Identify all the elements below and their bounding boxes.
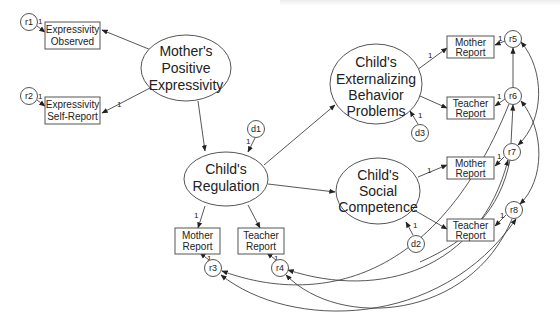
svg-text:Competence: Competence: [338, 199, 418, 215]
svg-text:Social: Social: [359, 183, 397, 199]
one-label: 1: [38, 17, 43, 26]
error-r7: r7: [504, 144, 521, 161]
one-label: 1: [38, 92, 43, 101]
path-r1-to-exp-obs: [37, 26, 45, 32]
svg-text:r8: r8: [510, 205, 518, 215]
svg-text:Behavior: Behavior: [348, 87, 404, 103]
path-soc-to-teacher-report: [414, 210, 447, 229]
error-r3: r3: [205, 260, 222, 277]
svg-text:r5: r5: [509, 34, 517, 44]
observed-social-mother-report: Mother Report: [447, 157, 494, 179]
svg-text:Expressivity: Expressivity: [46, 99, 99, 110]
observed-regulation-mother-report: Mother Report: [175, 228, 220, 254]
cov-r7-r6: [511, 105, 513, 143]
svg-text:Report: Report: [455, 108, 485, 119]
one-label: 1: [497, 92, 502, 101]
one-label: 1: [418, 111, 423, 120]
svg-text:r4: r4: [276, 263, 284, 273]
path-reg-to-soc: [268, 184, 335, 192]
observed-social-teacher-report: Teacher Report: [447, 219, 494, 241]
path-reg-to-mother-report: [198, 206, 205, 228]
observed-externalizing-mother-report: Mother Report: [447, 36, 494, 58]
svg-text:d2: d2: [411, 239, 421, 249]
svg-text:Positive: Positive: [161, 60, 210, 76]
path-mpe-to-reg: [198, 101, 205, 151]
path-mpe-to-exp-self: [102, 88, 150, 113]
one-label: 1: [427, 166, 432, 175]
path-reg-to-teacher-report: [248, 205, 260, 228]
svg-text:d1: d1: [251, 124, 261, 134]
error-r6: r6: [505, 88, 522, 105]
svg-text:d3: d3: [415, 128, 425, 138]
svg-text:r2: r2: [25, 91, 33, 101]
disturbance-d1: d1: [248, 121, 265, 138]
svg-text:Expressivity: Expressivity: [46, 24, 99, 35]
one-label: 1: [500, 211, 505, 220]
latent-childs-regulation: Child's Regulation: [184, 152, 268, 206]
path-soc-to-mother-report: [418, 165, 447, 177]
latent-childs-social-competence: Child's Social Competence: [336, 158, 420, 224]
svg-text:Report: Report: [455, 168, 485, 179]
fixed-loading-labels: 1 1 1 1 1 1 1 1 1 1 1 1 1 1 1: [38, 17, 505, 263]
disturbance-d3: d3: [412, 125, 429, 142]
svg-text:Mother: Mother: [182, 230, 214, 241]
observed-expressivity-observed: Expressivity Observed: [45, 22, 100, 49]
path-d3-to-ext: [410, 111, 418, 124]
svg-text:Self-Report: Self-Report: [47, 111, 98, 122]
one-label: 1: [428, 51, 433, 60]
svg-text:Child's: Child's: [357, 167, 399, 183]
error-r4: r4: [272, 260, 289, 277]
observed-externalizing-teacher-report: Teacher Report: [447, 97, 494, 119]
svg-text:r1: r1: [25, 17, 33, 27]
svg-text:Report: Report: [455, 230, 485, 241]
observed-regulation-teacher-report: Teacher Report: [238, 228, 284, 254]
cov-r6-r8: [520, 101, 539, 204]
path-mpe-to-exp-obs: [102, 30, 151, 50]
svg-text:r3: r3: [209, 263, 217, 273]
error-r5: r5: [505, 31, 522, 48]
svg-text:Report: Report: [246, 241, 276, 252]
svg-text:Externalizing: Externalizing: [336, 71, 416, 87]
svg-text:r6: r6: [509, 91, 517, 101]
disturbance-d2: d2: [408, 236, 425, 253]
one-label: 1: [497, 152, 502, 161]
one-label: 1: [413, 221, 418, 230]
error-r8: r8: [506, 202, 523, 219]
svg-text:Teacher: Teacher: [243, 230, 279, 241]
svg-text:r7: r7: [508, 147, 516, 157]
svg-text:Report: Report: [182, 241, 212, 252]
error-r2: r2: [21, 88, 38, 105]
svg-text:Mother's: Mother's: [159, 43, 212, 59]
one-label: 1: [246, 137, 251, 146]
svg-text:Child's: Child's: [205, 161, 247, 177]
one-label: 1: [117, 100, 122, 109]
svg-text:Report: Report: [455, 47, 485, 58]
one-label: 1: [194, 211, 199, 220]
error-r1: r1: [21, 14, 38, 31]
svg-text:Problems: Problems: [346, 103, 405, 119]
path-reg-to-ext: [264, 105, 335, 165]
latent-mothers-positive-expressivity: Mother's Positive Expressivity: [141, 35, 231, 101]
path-d2-to-soc: [406, 222, 413, 235]
observed-expressivity-self-report: Expressivity Self-Report: [45, 97, 100, 124]
svg-text:Regulation: Regulation: [193, 178, 260, 194]
path-ext-to-teacher-report: [420, 96, 447, 108]
latent-childs-externalizing-behavior-problems: Child's Externalizing Behavior Problems: [330, 44, 422, 124]
one-label: 1: [498, 34, 503, 43]
sem-diagram: 1 1 1 1 1 1 1 1 1 1 1 1 1 1 1 Mother's P…: [0, 0, 560, 334]
svg-text:Child's: Child's: [355, 54, 397, 70]
svg-text:Expressivity: Expressivity: [149, 77, 224, 93]
svg-text:Observed: Observed: [51, 36, 94, 47]
